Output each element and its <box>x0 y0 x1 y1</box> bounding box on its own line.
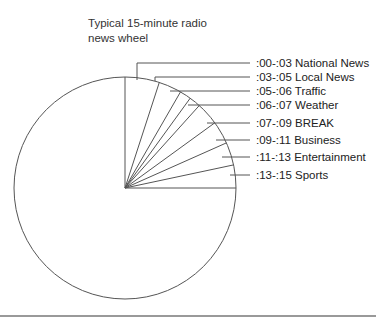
segment-labels: :00-:03 National News :03-:05 Local News… <box>256 57 369 181</box>
label-weather: :06-:07 Weather <box>256 99 338 111</box>
label-entertainment: :11-:13 Entertainment <box>256 151 367 163</box>
label-traffic: :05-:06 Traffic <box>256 85 326 97</box>
label-business: :09-:11 Business <box>256 134 341 146</box>
news-wheel-diagram: :00-:03 National News :03-:05 Local News… <box>0 0 376 323</box>
label-break: :07-:09 BREAK <box>256 117 334 129</box>
label-sports: :13-:15 Sports <box>256 169 328 181</box>
bottom-divider <box>0 315 376 317</box>
label-local-news: :03-:05 Local News <box>256 71 355 83</box>
label-national-news: :00-:03 National News <box>256 57 369 69</box>
wheel-spokes <box>125 77 236 188</box>
leader-lines <box>137 63 250 175</box>
